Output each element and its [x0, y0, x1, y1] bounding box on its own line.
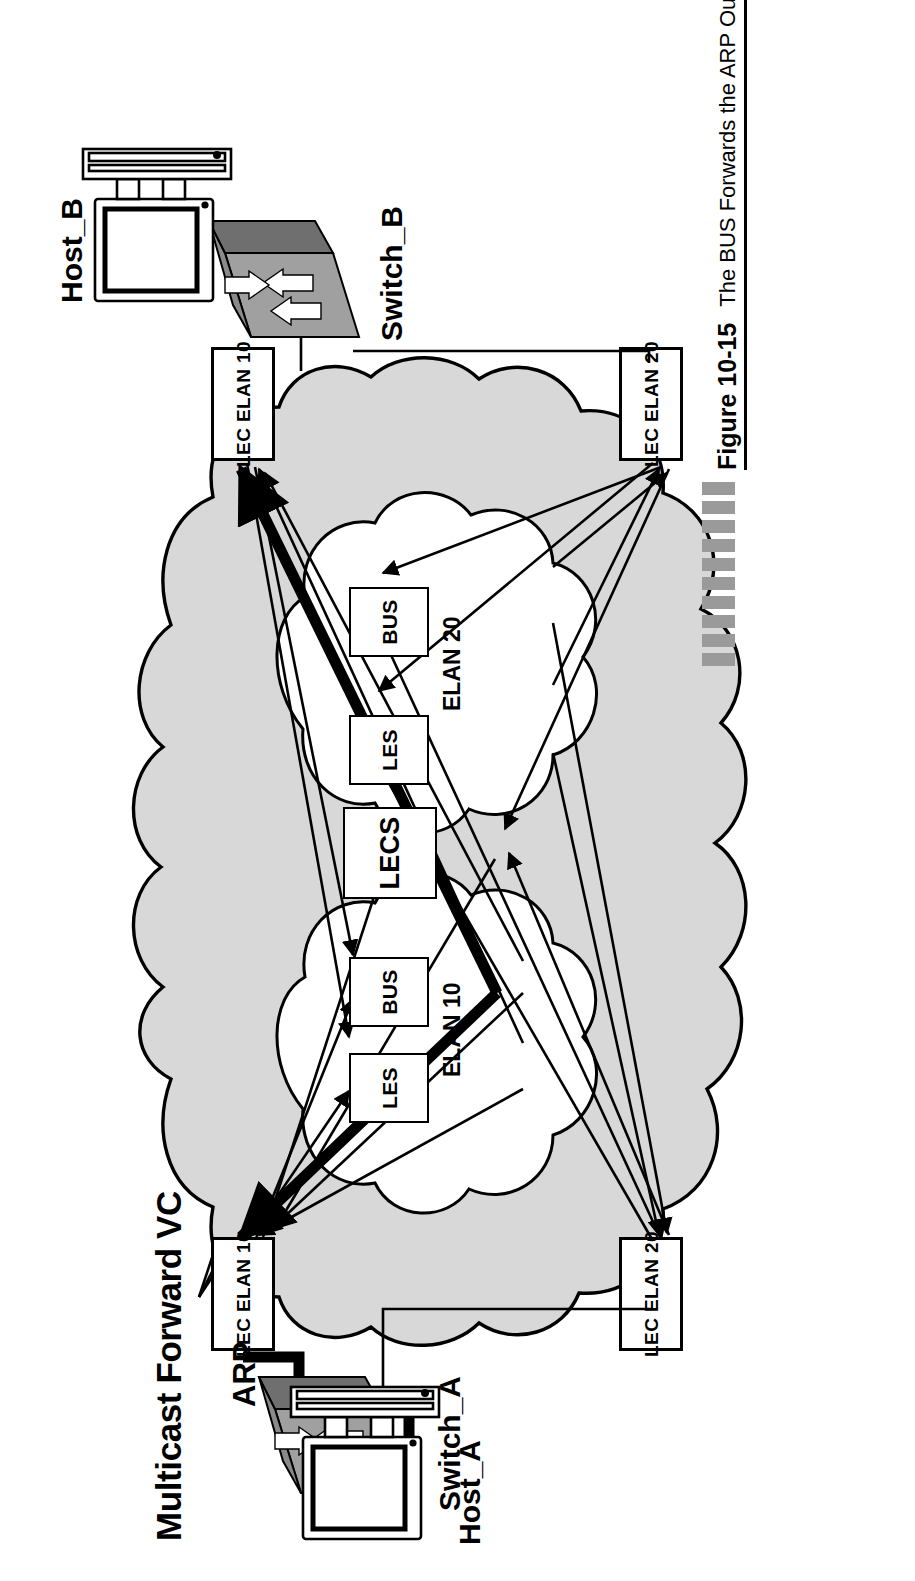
caption-dash	[702, 615, 735, 628]
caption-dash	[702, 634, 735, 647]
caption-dash	[702, 653, 735, 666]
caption-dash	[702, 596, 735, 609]
switch-b-label: Switch_B	[375, 205, 409, 340]
host-b-label: Host_B	[55, 197, 89, 302]
caption-dash-rule	[696, 476, 740, 666]
figure-number: Figure 10-15	[713, 323, 742, 470]
caption-dash	[702, 501, 735, 514]
figure-caption-text: The BUS Forwards the ARP Out the Multica…	[715, 0, 742, 307]
switch-a-label: Switch_A	[433, 1375, 467, 1510]
caption-dash	[702, 577, 735, 590]
caption-dash	[702, 558, 735, 571]
caption-dash	[702, 482, 735, 495]
figure-caption: Figure 10-15 The BUS Forwards the ARP Ou…	[690, 0, 750, 470]
caption-dash	[702, 520, 735, 533]
figure-root: Multicast Forward VC	[0, 0, 915, 1581]
caption-dash	[702, 539, 735, 552]
caption-rule	[744, 0, 747, 470]
